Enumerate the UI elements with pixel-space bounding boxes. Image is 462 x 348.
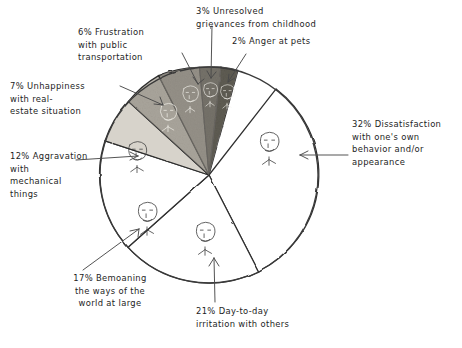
slice-label-aggravation-mechanical-things: 12% Aggravation with mechanical things — [10, 150, 110, 200]
slice-label-frustration-public-transportation: 6% Frustration with public transportatio… — [78, 26, 198, 64]
slice-label-day-to-day-irritation: 21% Day-to-day irritation with others — [196, 305, 346, 330]
pie-chart: 6% Frustration with public transportatio… — [0, 0, 462, 348]
leader-2pct — [228, 54, 246, 82]
slice-label-bemoaning-ways-of-world: 17% Bemoaning the ways of the world at l… — [54, 272, 166, 310]
slice-label-unhappiness-real-estate: 7% Unhappiness with real- estate situati… — [10, 80, 118, 118]
slice-label-unresolved-grievances-childhood: 3% Unresolved grievances from childhood — [196, 5, 332, 30]
slice-label-anger-at-pets: 2% Anger at pets — [232, 35, 352, 48]
slice-label-dissatisfaction-own-behavior: 32% Dissatisfaction with one's own behav… — [352, 118, 458, 168]
